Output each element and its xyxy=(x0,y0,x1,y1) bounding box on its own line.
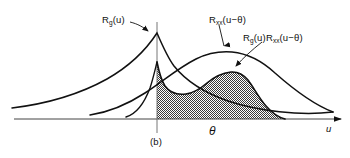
curve-product-left-tail xyxy=(126,62,157,117)
curve-label-product-base2: R xyxy=(266,32,273,43)
curve-label-product: Rg(u)Rxx(u−θ) xyxy=(243,32,303,44)
curve-label-product-arg2: (u−θ) xyxy=(279,32,302,43)
curve-label-rxx-arg: (u−θ) xyxy=(223,14,246,25)
panel-caption: (b) xyxy=(150,136,162,147)
curve-label-rg: Rg(u) xyxy=(102,14,125,26)
figure-container: Rg(u) Rxx(u−θ) Rg(u)Rxx(u−θ) θ u (b) xyxy=(0,0,350,158)
curve-label-rxx: Rxx(u−θ) xyxy=(209,14,246,26)
curve-label-rg-arg: (u) xyxy=(113,14,125,25)
leader-rg xyxy=(130,22,148,31)
curve-label-rxx-text: R xyxy=(209,14,216,25)
curve-label-product-arg1: (u) xyxy=(254,32,266,43)
theta-axis-label: θ xyxy=(209,124,216,138)
leader-rxx xyxy=(219,25,224,46)
x-axis-label: u xyxy=(326,123,331,134)
curve-label-product-base1: R xyxy=(243,32,250,43)
curve-label-rg-text: R xyxy=(102,14,109,25)
figure-canvas xyxy=(0,0,350,158)
